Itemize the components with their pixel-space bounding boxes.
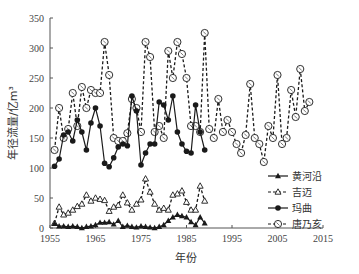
x-tick-label: 1965: [86, 233, 106, 244]
marker-filled-triangle: [197, 214, 203, 219]
marker-filled-triangle: [115, 218, 121, 223]
legend-item: 吉迈: [268, 187, 312, 198]
y-tick-label: 100: [29, 163, 44, 174]
marker-open-triangle: [202, 198, 208, 203]
marker-open-triangle: [83, 192, 89, 197]
marker-filled-circle: [134, 108, 140, 114]
y-tick-label: 150: [29, 133, 44, 144]
marker-filled-circle: [93, 105, 99, 111]
marker-filled-circle: [56, 156, 62, 162]
marker-filled-circle: [188, 150, 194, 156]
marker-filled-triangle: [193, 222, 199, 227]
marker-open-triangle: [124, 200, 130, 205]
marker-filled-circle: [143, 150, 149, 156]
marker-filled-circle: [79, 129, 85, 135]
marker-filled-circle: [88, 120, 94, 126]
legend: 黄河沿吉迈玛曲唐乃亥: [268, 170, 322, 230]
x-tick-label: 2005: [268, 233, 288, 244]
marker-filled-circle: [202, 147, 208, 153]
y-tick-label: 50: [34, 193, 44, 204]
marker-filled-circle: [170, 93, 176, 99]
y-tick-label: 200: [29, 103, 44, 114]
marker-filled-circle: [75, 117, 81, 123]
legend-label: 吉迈: [292, 187, 312, 198]
legend-label: 玛曲: [292, 203, 312, 214]
marker-open-triangle: [138, 197, 144, 202]
marker-filled-circle: [275, 205, 281, 211]
marker-filled-circle: [125, 143, 131, 149]
marker-filled-circle: [97, 123, 103, 129]
marker-filled-circle: [111, 155, 117, 161]
marker-filled-circle: [152, 141, 158, 147]
legend-item: 玛曲: [268, 203, 312, 214]
marker-open-triangle: [93, 195, 99, 200]
marker-filled-circle: [179, 141, 185, 147]
y-tick-label: 350: [29, 13, 44, 24]
marker-filled-circle: [65, 129, 71, 135]
marker-filled-circle: [197, 129, 203, 135]
marker-filled-circle: [52, 163, 58, 169]
x-tick-label: 1995: [222, 233, 242, 244]
y-axis-label: 年径流量/亿m³: [6, 86, 20, 160]
marker-open-triangle: [56, 204, 62, 209]
x-tick-label: 2015: [313, 233, 333, 244]
marker-filled-circle: [106, 164, 112, 170]
marker-open-triangle: [129, 207, 135, 212]
marker-open-triangle: [120, 192, 126, 197]
marker-open-triangle: [147, 189, 153, 194]
marker-filled-triangle: [106, 219, 112, 224]
marker-filled-circle: [193, 102, 199, 108]
x-tick-label: 1985: [177, 233, 197, 244]
marker-open-triangle: [143, 176, 149, 181]
runoff-chart: 0501001502002503003501955196519751985199…: [0, 0, 359, 274]
marker-open-triangle: [115, 202, 121, 207]
x-axis-label: 年份: [175, 251, 197, 265]
marker-filled-circle: [84, 147, 90, 153]
legend-item: 黄河沿: [268, 170, 322, 182]
marker-filled-triangle: [124, 222, 130, 227]
marker-open-triangle: [152, 201, 158, 206]
legend-label: 黄河沿: [292, 170, 322, 182]
marker-filled-circle: [70, 138, 76, 144]
y-tick-label: 250: [29, 73, 44, 84]
x-tick-label: 1975: [131, 233, 151, 244]
y-tick-label: 300: [29, 43, 44, 54]
marker-filled-circle: [161, 102, 167, 108]
marker-open-triangle: [197, 183, 203, 188]
marker-open-triangle: [179, 188, 185, 193]
plot-area: [51, 29, 313, 230]
x-tick-label: 1955: [40, 233, 60, 244]
marker-open-triangle: [184, 199, 190, 204]
marker-filled-circle: [138, 162, 144, 168]
marker-filled-triangle: [70, 223, 76, 228]
marker-filled-circle: [166, 117, 172, 123]
marker-filled-circle: [102, 160, 108, 166]
y-tick-label: 0: [39, 223, 44, 234]
series-1: [52, 212, 208, 231]
marker-open-triangle: [161, 205, 167, 210]
marker-filled-circle: [129, 93, 135, 99]
legend-label: 唐乃亥: [292, 218, 322, 230]
marker-filled-triangle: [138, 223, 144, 228]
marker-filled-circle: [175, 129, 181, 135]
marker-open-triangle: [79, 201, 85, 206]
marker-filled-triangle: [174, 212, 180, 217]
